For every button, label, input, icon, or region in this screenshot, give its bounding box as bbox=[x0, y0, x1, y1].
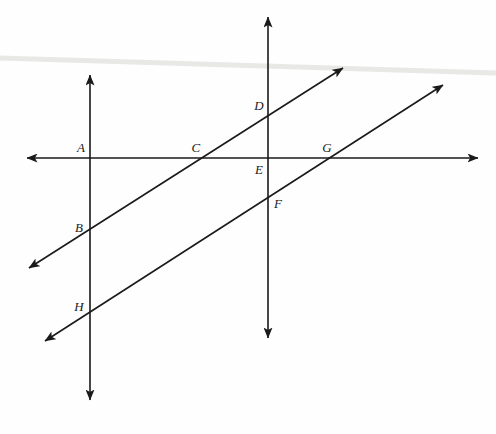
point-label-d: D bbox=[254, 99, 264, 112]
point-label-h: H bbox=[74, 300, 84, 313]
point-label-c: C bbox=[192, 141, 201, 154]
point-label-f: F bbox=[274, 197, 282, 210]
line-transversal-upper bbox=[29, 68, 343, 268]
geometry-figure: A B C D E F G H bbox=[0, 0, 496, 434]
point-label-e: E bbox=[255, 163, 263, 176]
line-transversal-lower bbox=[45, 85, 443, 341]
geometry-canvas bbox=[0, 0, 496, 434]
point-label-a: A bbox=[77, 141, 85, 154]
scan-streak-artifact bbox=[0, 58, 496, 73]
point-label-b: B bbox=[75, 221, 83, 234]
point-label-g: G bbox=[322, 141, 332, 154]
